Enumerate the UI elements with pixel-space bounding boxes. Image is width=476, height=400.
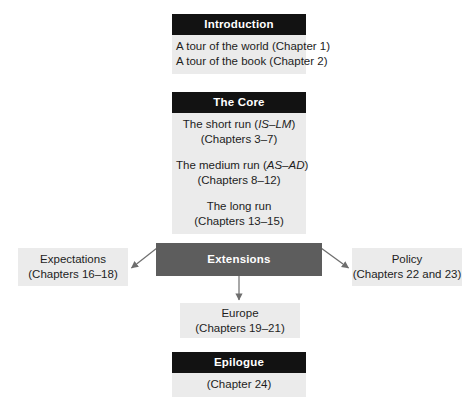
node-core-long-run-prefix: The long run (207, 200, 272, 212)
node-expectations-chapters: (Chapters 16–18) (18, 267, 128, 282)
node-core-medium-run-title: The medium run (AS–AD) (176, 158, 302, 173)
node-expectations: Expectations (Chapters 16–18) (18, 248, 128, 286)
node-core-long-run-title: The long run (176, 199, 302, 214)
node-core-group-long-run: The long run (Chapters 13–15) (176, 199, 302, 229)
node-policy-chapters: (Chapters 22 and 23) (352, 267, 462, 282)
node-core-medium-run-suffix: ) (304, 159, 308, 171)
node-europe-title: Europe (180, 306, 300, 321)
node-introduction-line-1: A tour of the world (Chapter 1) (176, 39, 302, 54)
node-introduction-header: Introduction (172, 14, 306, 35)
node-core-body: The short run (IS–LM) (Chapters 3–7) The… (172, 113, 306, 234)
node-core-medium-run-chapters: (Chapters 8–12) (176, 173, 302, 188)
node-introduction: Introduction A tour of the world (Chapte… (172, 14, 306, 74)
node-introduction-body: A tour of the world (Chapter 1) A tour o… (172, 35, 306, 74)
node-europe: Europe (Chapters 19–21) (180, 303, 300, 338)
node-epilogue-body: (Chapter 24) (172, 373, 306, 397)
node-core-short-run-title: The short run (IS–LM) (176, 117, 302, 132)
node-extensions-header: Extensions (156, 243, 322, 276)
node-core-short-run-model: IS–LM (258, 118, 291, 130)
node-core-medium-run-model: AS–AD (267, 159, 305, 171)
node-core-short-run-chapters: (Chapters 3–7) (176, 132, 302, 147)
node-core: The Core The short run (IS–LM) (Chapters… (172, 92, 306, 234)
node-extensions: Extensions (156, 243, 322, 276)
node-core-short-run-suffix: ) (291, 118, 295, 130)
node-core-header: The Core (172, 92, 306, 113)
node-epilogue: Epilogue (Chapter 24) (172, 352, 306, 397)
node-core-long-run-chapters: (Chapters 13–15) (176, 214, 302, 229)
node-policy: Policy (Chapters 22 and 23) (352, 248, 462, 286)
node-core-short-run-prefix: The short run ( (183, 118, 258, 130)
node-core-medium-run-prefix: The medium run ( (176, 159, 267, 171)
diagram-canvas: Introduction A tour of the world (Chapte… (0, 0, 476, 400)
node-epilogue-line-1: (Chapter 24) (176, 377, 302, 392)
node-expectations-title: Expectations (18, 252, 128, 267)
node-europe-chapters: (Chapters 19–21) (180, 321, 300, 336)
node-epilogue-header: Epilogue (172, 352, 306, 373)
node-policy-title: Policy (352, 252, 462, 267)
edge-extensions-to-expectations (132, 248, 158, 268)
node-core-group-medium-run: The medium run (AS–AD) (Chapters 8–12) (176, 158, 302, 188)
edge-extensions-to-policy (321, 248, 349, 268)
node-introduction-line-2: A tour of the book (Chapter 2) (176, 54, 302, 69)
node-core-group-short-run: The short run (IS–LM) (Chapters 3–7) (176, 117, 302, 147)
